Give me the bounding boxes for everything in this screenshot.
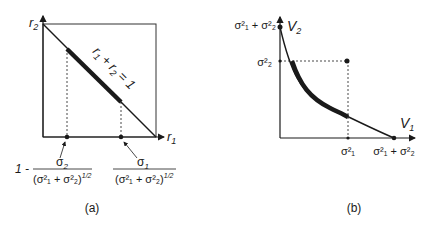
- feasible-curve-segment: [292, 61, 348, 117]
- constraint-line-label: r1+r2= 1: [88, 44, 138, 94]
- r1-axis-label: r1: [167, 129, 176, 146]
- svg-text:1 -: 1 -: [15, 162, 29, 176]
- left-marker-dot: [65, 135, 70, 140]
- svg-text:(σ²₁ + σ²₂)1/2: (σ²₁ + σ²₂)1/2: [115, 172, 174, 185]
- v2-axis-label: V2: [287, 18, 301, 36]
- corner-dot: [345, 59, 350, 64]
- figure: r2 r1 r1+r2= 1 1 - σ2 (σ²₁ + σ²₂)1/2 σ1 …: [0, 0, 426, 225]
- x-mid-tick-dot: [346, 136, 349, 139]
- right-marker-formula: σ1 (σ²₁ + σ²₂)1/2: [113, 155, 176, 185]
- left-marker-formula: 1 - σ2 (σ²₁ + σ²₂)1/2: [15, 155, 92, 185]
- y-mid-tick-dot: [278, 59, 281, 62]
- right-marker-dot: [119, 135, 124, 140]
- y-top-tick-label: σ²₁ + σ²₂: [235, 19, 276, 31]
- y-mid-tick-label: σ²₂: [257, 56, 272, 68]
- right-pointer-arrow: [124, 142, 137, 158]
- panel-a: r2 r1 r1+r2= 1 1 - σ2 (σ²₁ + σ²₂)1/2 σ1 …: [15, 15, 176, 215]
- top-curve-dot: [278, 25, 283, 30]
- end-curve-dot: [392, 136, 397, 141]
- caption-b: (b): [347, 201, 362, 215]
- panel-b: V2 V1 σ²₁ + σ²₂ σ²₂ σ²₁ σ²₁ + σ²₂ (b): [235, 17, 415, 215]
- r2-axis-label: r2: [29, 15, 38, 32]
- x-end-tick-label: σ²₁ + σ²₂: [373, 145, 414, 157]
- svg-text:(σ²₁ + σ²₂)1/2: (σ²₁ + σ²₂)1/2: [33, 172, 92, 185]
- caption-a: (a): [85, 201, 100, 215]
- x-mid-tick-label: σ²₁: [341, 145, 355, 157]
- v1-axis-label: V1: [400, 115, 414, 133]
- variance-curve: [280, 27, 394, 138]
